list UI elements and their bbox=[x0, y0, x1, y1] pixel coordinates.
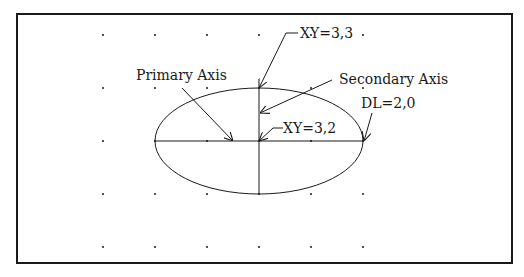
grid-dot bbox=[206, 246, 208, 248]
secondary-axis-label: Secondary Axis bbox=[339, 71, 448, 87]
grid-dot bbox=[102, 140, 104, 142]
dl-label: DL=2,0 bbox=[361, 95, 416, 111]
xy-center-leader-arrow bbox=[259, 128, 283, 141]
grid-dot bbox=[310, 246, 312, 248]
grid-dot bbox=[206, 87, 208, 89]
grid-dot bbox=[206, 34, 208, 36]
ellipse-diagram: XY=3,3 Secondary Axis Primary Axis DL=2,… bbox=[0, 0, 524, 277]
grid-dot bbox=[102, 34, 104, 36]
xy-top-leader-arrow bbox=[259, 33, 298, 88]
grid-dot bbox=[102, 246, 104, 248]
grid-dot bbox=[102, 87, 104, 89]
grid-dot bbox=[154, 193, 156, 195]
grid-dot bbox=[102, 193, 104, 195]
grid-dot bbox=[310, 87, 312, 89]
grid-dot bbox=[258, 34, 260, 36]
dl-leader-arrow bbox=[364, 113, 372, 141]
grid-dot bbox=[154, 246, 156, 248]
secondary-axis-leader-arrow bbox=[260, 80, 332, 113]
xy-top-label: XY=3,3 bbox=[300, 25, 353, 41]
grid-dot bbox=[154, 34, 156, 36]
grid-dot bbox=[362, 34, 364, 36]
grid-dot bbox=[206, 193, 208, 195]
grid-dot bbox=[362, 246, 364, 248]
xy-center-label: XY=3,2 bbox=[283, 120, 336, 136]
diagram-frame bbox=[17, 14, 512, 263]
grid-dot bbox=[362, 87, 364, 89]
grid-dot bbox=[258, 246, 260, 248]
grid-dot bbox=[362, 193, 364, 195]
grid-dot bbox=[154, 87, 156, 89]
primary-axis-label: Primary Axis bbox=[136, 67, 227, 83]
primary-axis-leader-arrow bbox=[182, 88, 233, 141]
grid-dot bbox=[310, 193, 312, 195]
